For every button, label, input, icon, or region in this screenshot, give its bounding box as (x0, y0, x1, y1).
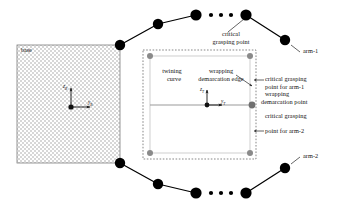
arm-2-label: arm-2 (303, 152, 318, 159)
tool-frame-z-axis-label: zT (200, 86, 204, 94)
leader-arm-2 (291, 157, 300, 164)
joint (115, 40, 125, 50)
arm-2-joints (115, 158, 290, 199)
joint (190, 9, 201, 20)
joint (240, 187, 251, 198)
tool-coordinate-frame (207, 90, 222, 105)
corner-marker-top-right (247, 53, 253, 59)
figure-canvas: base zB yB zT yT critical grasping point… (0, 0, 341, 208)
joint (240, 9, 251, 20)
corner-marker-top-left (147, 53, 153, 59)
corner-marker-bottom-right (247, 150, 253, 156)
joint (190, 187, 201, 198)
tool-frame-y-axis-label: yT (221, 98, 225, 106)
critical-grasping-point-arm1-label-line1: critical grasping (265, 75, 307, 82)
arm-1-label: arm-1 (303, 47, 318, 54)
arm-1-links (120, 15, 285, 45)
base-frame-y-axis-label: yB (88, 99, 93, 107)
critical-grasping-point-label-line1: critical (222, 30, 240, 37)
wrapping-demarcation-point-marker (249, 102, 256, 109)
arm-2-links (120, 163, 285, 193)
wrapping-demarcation-point-label-line2: demarcation point (261, 98, 308, 105)
critical-grasping-point-label-line2: grasping point (213, 38, 250, 45)
joint (280, 35, 290, 45)
critical-grasping-point-arm2-label-line2: point for arm-2 (265, 127, 304, 134)
leader-arm-1 (291, 45, 300, 52)
joint (115, 158, 125, 168)
critical-grasping-point-arm1-label-line2: point for arm-1 (265, 83, 304, 90)
base-label: base (21, 47, 32, 53)
base-block (17, 45, 120, 163)
base-frame-z-axis-label: zB (63, 83, 67, 91)
wrapping-demarcation-edge-label-line1: wrapping (209, 67, 233, 74)
ellipsis-dots-bottom (209, 191, 233, 195)
arm-1-joints (115, 9, 290, 50)
wrapping-demarcation-point-label-line1: wrapping (265, 90, 289, 97)
joint (280, 163, 290, 173)
joint (153, 179, 163, 189)
base-frame-origin (68, 104, 73, 109)
joint (153, 19, 163, 29)
tool-frame-origin (205, 103, 210, 108)
wrapping-demarcation-edge-label-line2: demarcation edge (198, 75, 243, 82)
ellipsis-dots-top (209, 13, 233, 17)
twining-curve-label-line2: curve (167, 75, 181, 82)
twining-curve-label-line1: twining (162, 67, 182, 74)
critical-grasping-point-arm2-label-line1: critical grasping (265, 112, 307, 119)
corner-marker-bottom-left (147, 150, 153, 156)
